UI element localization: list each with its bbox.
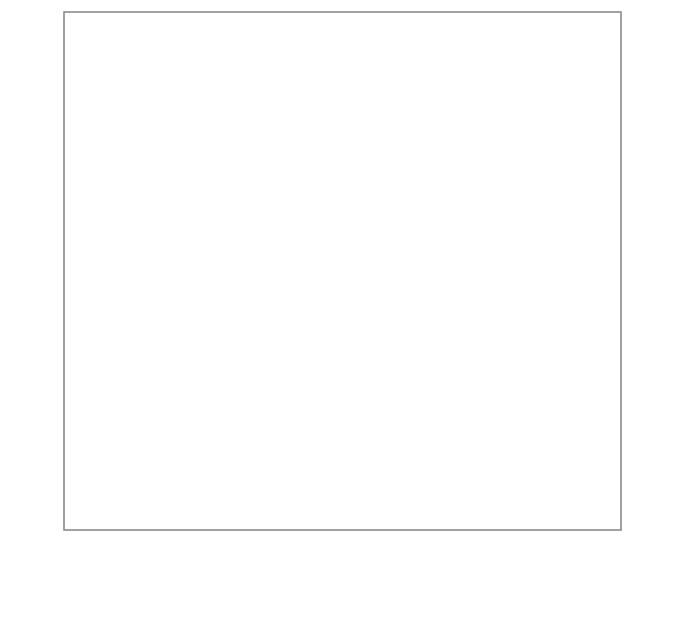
plot-frame [64,12,621,530]
line-chart [0,0,687,625]
chart-container [0,0,687,625]
